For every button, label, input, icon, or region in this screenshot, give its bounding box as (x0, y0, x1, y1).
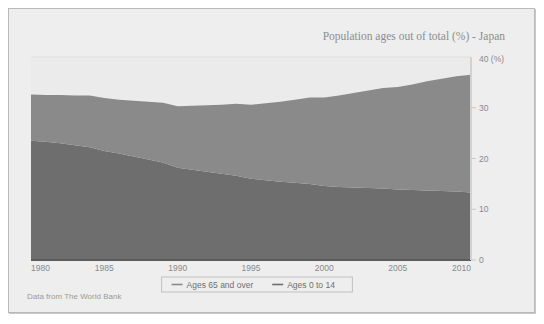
chart-figure: 0102030 40 (%) 1980198519901995200020052… (0, 0, 544, 324)
y-tick-20: 20 (479, 154, 489, 164)
legend-label-1[interactable]: Ages 0 to 14 (287, 280, 335, 290)
x-tick-1980: 1980 (31, 263, 50, 273)
chart-legend[interactable]: Ages 65 and overAges 0 to 14 (162, 277, 353, 292)
x-axis-ticks: 1980198519901995200020052010 (31, 263, 471, 273)
x-tick-2010: 2010 (452, 263, 471, 273)
chart-frame: 0102030 40 (%) 1980198519901995200020052… (8, 8, 535, 313)
y-tick-0: 0 (479, 255, 484, 265)
population-area-chart[interactable]: 0102030 40 (%) 1980198519901995200020052… (9, 9, 536, 314)
y-tick-10: 10 (479, 204, 489, 214)
y-axis-unit-label: 40 (%) (479, 54, 504, 64)
x-tick-2000: 2000 (315, 263, 334, 273)
x-tick-1985: 1985 (95, 263, 114, 273)
chart-title: Population ages out of total (%) - Japan (323, 30, 506, 43)
x-tick-1990: 1990 (168, 263, 187, 273)
x-tick-1995: 1995 (242, 263, 261, 273)
legend-label-0[interactable]: Ages 65 and over (187, 280, 254, 290)
x-tick-2005: 2005 (388, 263, 407, 273)
y-tick-30: 30 (479, 103, 489, 113)
data-source-note: Data from The World Bank (27, 292, 122, 301)
y-axis-ticks: 0102030 (471, 103, 489, 265)
